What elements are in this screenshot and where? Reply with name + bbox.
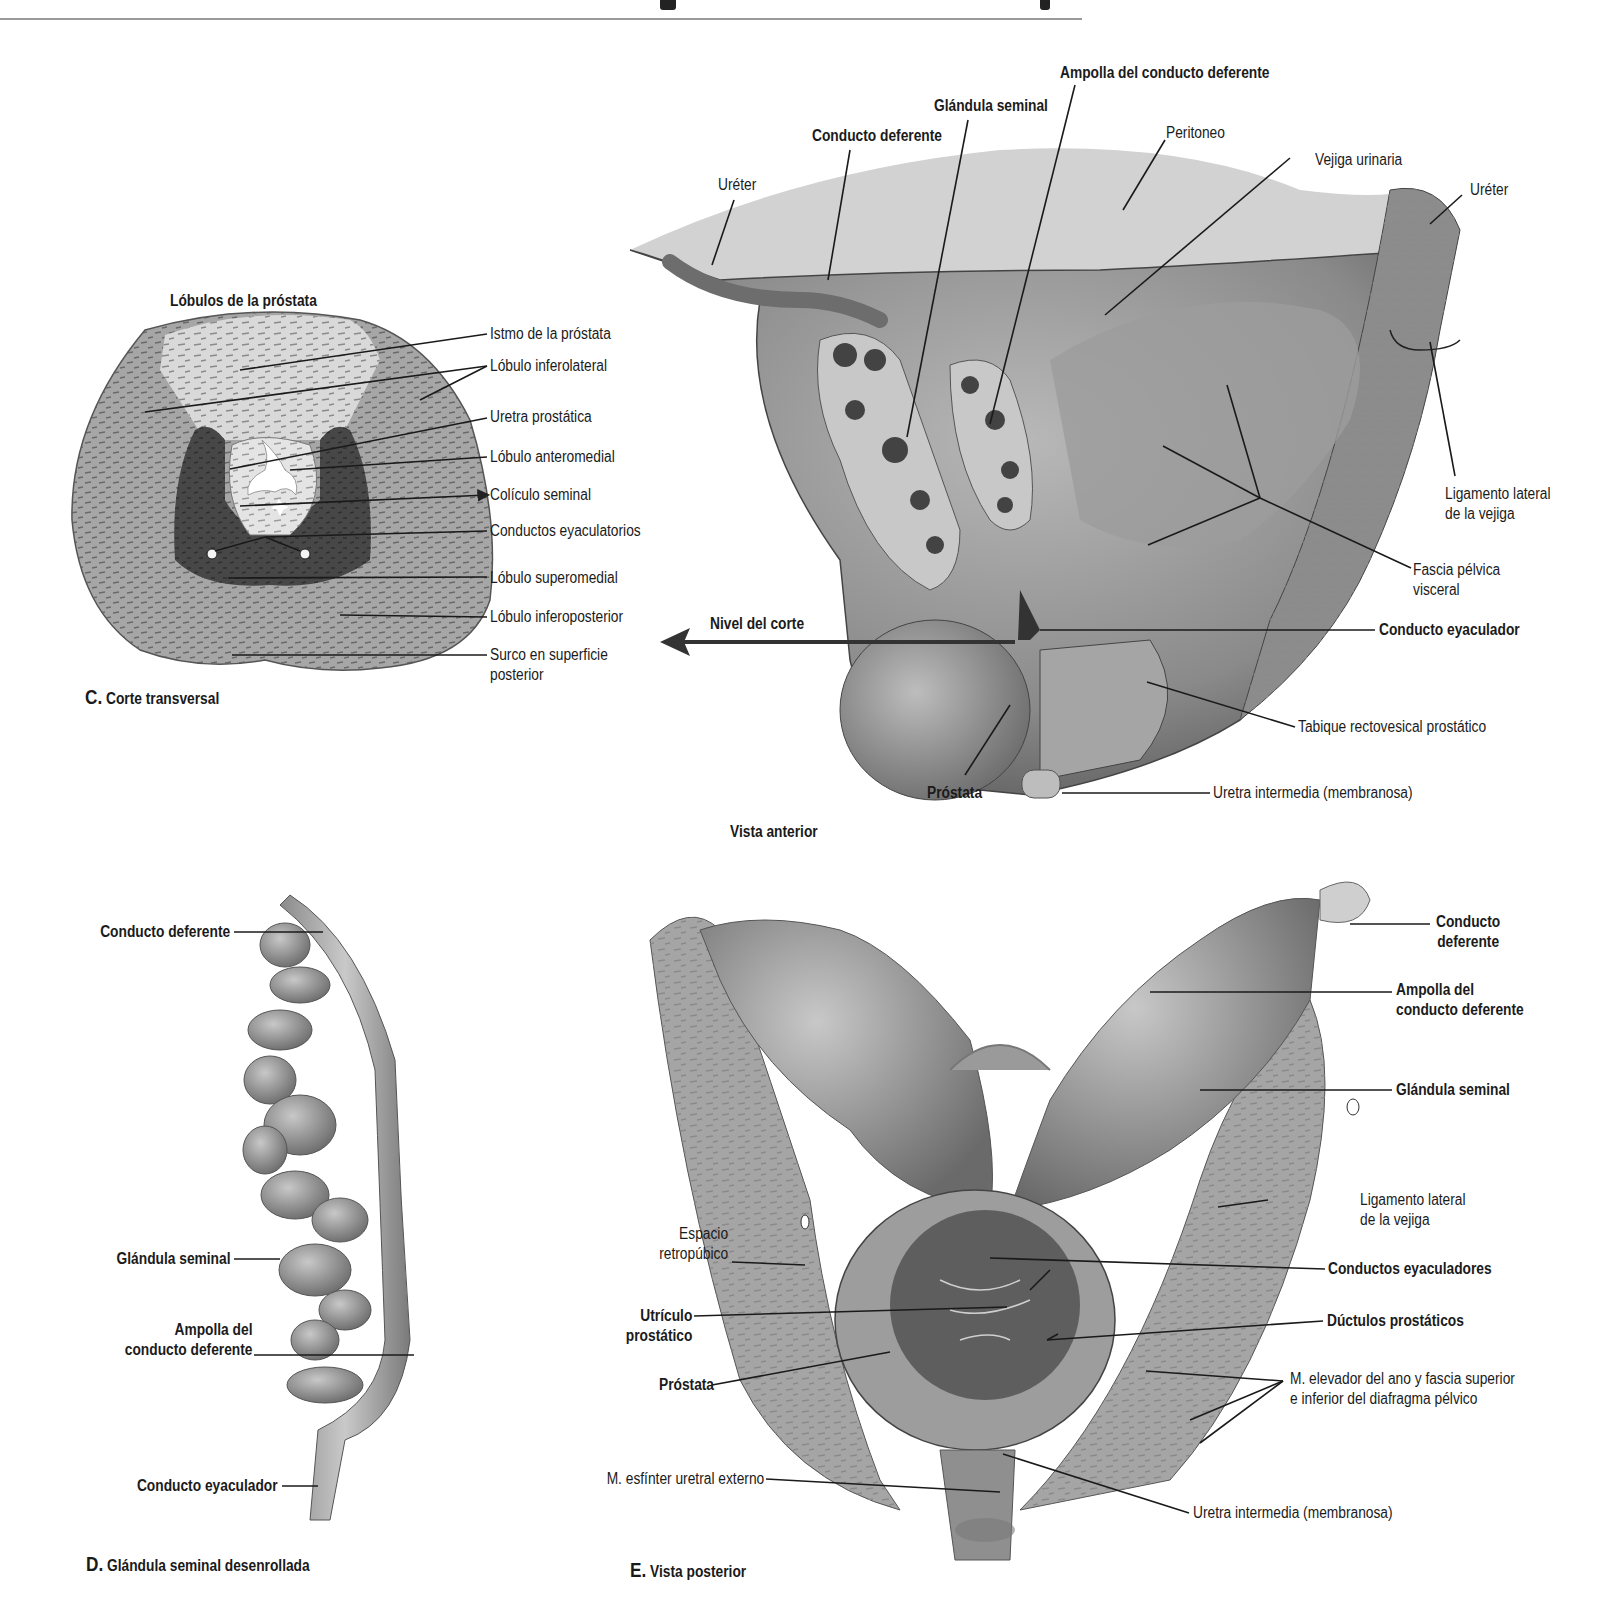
figure-d-caption: D. Glándula seminal desenrollada (86, 1554, 310, 1576)
label-uretra-prostatica: Uretra prostática (490, 407, 592, 427)
label-peritoneo: Peritoneo (1166, 123, 1225, 143)
seminal-gland-unrolled (243, 895, 410, 1520)
figure-e-caption-text: Vista posterior (650, 1563, 746, 1580)
label-lobulo-anteromedial: Lóbulo anteromedial (490, 447, 615, 467)
label-e-elevador-ano: M. elevador del ano y fascia superior e … (1290, 1369, 1515, 1409)
label-glandula-seminal: Glándula seminal (934, 96, 1048, 116)
label-ureter-left: Uréter (718, 175, 756, 195)
label-d-conducto-deferente: Conducto deferente (100, 922, 230, 942)
label-coliculo-seminal: Colículo seminal (490, 485, 591, 505)
label-e-conductos-eyaculadores: Conductos eyaculadores (1328, 1259, 1492, 1279)
figure-e-letter: E. (630, 1559, 646, 1581)
label-conductos-eyaculatorios: Conductos eyaculatorios (490, 521, 641, 541)
label-e-conducto-deferente: Conducto deferente (1436, 912, 1500, 952)
posterior-view (650, 882, 1370, 1560)
label-lobulo-superomedial: Lóbulo superomedial (490, 568, 618, 588)
label-uretra-intermedia: Uretra intermedia (membranosa) (1213, 783, 1413, 803)
label-d-conducto-eyaculador: Conducto eyaculador (137, 1476, 278, 1496)
label-e-ligamento-lateral: Ligamento lateral de la vejiga (1360, 1190, 1466, 1230)
label-e-uretra-intermedia: Uretra intermedia (membranosa) (1193, 1503, 1393, 1523)
label-e-utriculo-prostatico: Utrículo prostático (625, 1306, 692, 1346)
figure-d-letter: D. (86, 1553, 103, 1575)
label-fascia-pelvica-visceral: Fascia pélvica visceral (1413, 560, 1500, 600)
label-e-prostata: Próstata (659, 1375, 714, 1395)
label-surco-superficie-posterior: Surco en superficie posterior (490, 645, 608, 685)
figure-e-caption: E. Vista posterior (630, 1560, 746, 1582)
figure-d-caption-text: Glándula seminal desenrollada (107, 1557, 310, 1574)
label-e-glandula-seminal: Glándula seminal (1396, 1080, 1510, 1100)
figure-c-caption: C. Corte transversal (85, 687, 219, 709)
label-d-ampolla: Ampolla del conducto deferente (124, 1320, 252, 1360)
label-ligamento-lateral-vejiga: Ligamento lateral de la vejiga (1445, 484, 1551, 524)
figure-c-letter: C. (85, 686, 102, 708)
label-conducto-eyaculador: Conducto eyaculador (1379, 620, 1520, 640)
label-e-esfinter-uretral: M. esfínter uretral externo (606, 1469, 764, 1489)
label-tabique-rectovesical: Tabique rectovesical prostático (1298, 717, 1486, 737)
label-nivel-del-corte: Nivel del corte (710, 614, 804, 634)
figure-c-caption-text: Corte transversal (106, 690, 219, 707)
label-e-ductulos-prostaticos: Dúctulos prostáticos (1327, 1311, 1464, 1331)
label-d-glandula-seminal: Glándula seminal (116, 1249, 230, 1269)
label-ampolla-conducto-deferente: Ampolla del conducto deferente (1060, 63, 1269, 83)
label-e-ampolla: Ampolla del conducto deferente (1396, 980, 1524, 1020)
atlas-page: Lóbulos de la próstata Istmo de la próst… (0, 0, 1622, 1617)
label-lobulo-inferoposterior: Lóbulo inferoposterior (490, 607, 623, 627)
label-lobulo-inferolateral: Lóbulo inferolateral (490, 356, 607, 376)
label-vejiga-urinaria: Vejiga urinaria (1315, 150, 1402, 170)
figure-c-title: Lóbulos de la próstata (170, 292, 317, 310)
label-e-espacio-retropubico: Espacio retropúbico (659, 1224, 728, 1264)
figure-anterior-caption: Vista anterior (730, 822, 818, 842)
label-conducto-deferente: Conducto deferente (812, 126, 942, 146)
bladder-anterior-view (630, 148, 1460, 800)
label-istmo: Istmo de la próstata (490, 324, 611, 344)
label-prostata: Próstata (927, 783, 982, 803)
label-ureter-right: Uréter (1470, 180, 1508, 200)
